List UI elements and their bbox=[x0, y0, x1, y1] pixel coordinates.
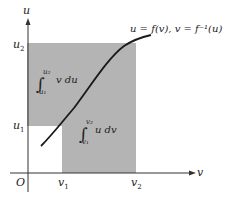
integral-upper-integrand: v du bbox=[56, 74, 78, 85]
integral-upper-limit-top: u₂ bbox=[43, 68, 51, 76]
tick-u2: u2 bbox=[13, 38, 25, 53]
u-axis-label: u bbox=[23, 4, 30, 17]
origin-label: O bbox=[16, 176, 25, 189]
curve-label: u = f(v), v = f⁻¹(u) bbox=[130, 23, 222, 34]
tick-v1: v1 bbox=[58, 176, 69, 191]
integral-upper-limit-bottom: u₁ bbox=[39, 88, 47, 96]
integral-lower-integrand: u dv bbox=[95, 124, 117, 135]
tick-u1: u1 bbox=[13, 119, 25, 134]
integral-lower-limit-bottom: v₁ bbox=[82, 138, 89, 146]
tick-v2: v2 bbox=[131, 176, 142, 191]
integral-lower-limit-top: v₂ bbox=[86, 118, 93, 126]
integration-by-parts-diagram: u v O u2 u1 v1 v2 u = f(v), v = f⁻¹(u) ∫… bbox=[0, 0, 232, 200]
u-axis-arrow-icon bbox=[26, 18, 31, 25]
v-axis-arrow-icon bbox=[189, 171, 196, 176]
v-axis-label: v bbox=[197, 166, 204, 179]
